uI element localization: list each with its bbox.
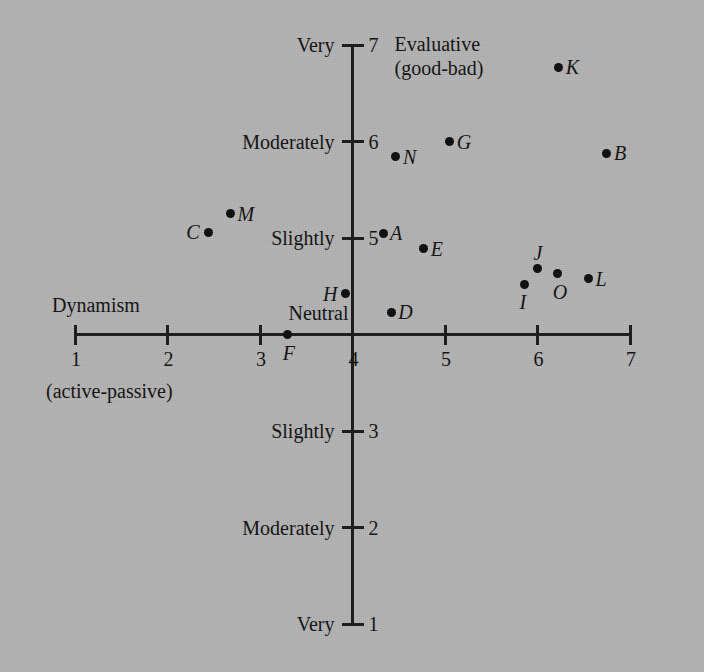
data-point	[379, 229, 388, 238]
data-point-label: D	[398, 302, 412, 322]
y-axis-tick-label: 3	[369, 421, 379, 441]
x-axis-tick-label: 2	[162, 349, 176, 369]
x-axis-tick-label: 5	[439, 349, 453, 369]
x-axis-tick	[629, 325, 632, 345]
data-point-label: K	[566, 57, 579, 77]
y-axis-tick-label: 5	[369, 228, 379, 248]
data-point-label: O	[553, 282, 567, 302]
y-axis-tick	[342, 237, 364, 240]
figure-canvas: 1234567123567VeryModeratelySlightlyNeutr…	[0, 0, 704, 672]
y-axis-category-label: Very	[0, 614, 335, 634]
data-point-label: C	[186, 222, 199, 242]
x-axis-tick-label: 7	[624, 349, 638, 369]
data-point	[554, 63, 563, 72]
y-axis-tick-label: 2	[369, 518, 379, 538]
data-point	[419, 244, 428, 253]
data-point	[445, 137, 454, 146]
y-axis-category-label: Slightly	[0, 228, 335, 248]
y-axis-category-label: Moderately	[0, 132, 335, 152]
data-point	[602, 149, 611, 158]
data-point	[341, 289, 350, 298]
data-point-label: F	[283, 343, 295, 363]
data-point	[283, 330, 292, 339]
data-point	[553, 269, 562, 278]
y-axis-title: Evaluative(good-bad)	[395, 33, 484, 80]
y-axis-title-line1: Evaluative	[395, 33, 484, 57]
y-axis-category-label: Moderately	[0, 518, 335, 538]
data-point-label: J	[534, 243, 543, 263]
data-point	[520, 280, 529, 289]
data-point-label: L	[595, 269, 606, 289]
x-axis-tick	[74, 325, 77, 345]
data-point-label: B	[614, 143, 626, 163]
data-point	[387, 308, 396, 317]
x-axis-tick-label: 6	[532, 349, 546, 369]
data-point	[584, 274, 593, 283]
x-axis-title: Dynamism	[52, 295, 140, 315]
y-axis-tick	[342, 526, 364, 529]
y-axis-category-label: Slightly	[0, 421, 335, 441]
data-point	[533, 264, 542, 273]
data-point	[204, 228, 213, 237]
data-point-label: A	[390, 223, 402, 243]
data-point-label: M	[237, 204, 254, 224]
x-axis-tick-label: 3	[254, 349, 268, 369]
y-axis-line	[351, 45, 354, 624]
y-axis-category-label: Very	[0, 35, 335, 55]
y-axis-tick	[342, 44, 364, 47]
y-axis-tick-label: 1	[369, 614, 379, 634]
x-axis-tick	[444, 325, 447, 345]
data-point	[226, 209, 235, 218]
data-point-label: N	[403, 147, 416, 167]
x-axis-tick	[536, 325, 539, 345]
data-point-label: E	[431, 239, 443, 259]
scatter-plot: 1234567123567VeryModeratelySlightlyNeutr…	[0, 0, 704, 672]
y-axis-title-line2: (good-bad)	[395, 57, 484, 81]
y-axis-tick	[342, 140, 364, 143]
data-point-label: I	[520, 292, 527, 312]
data-point-label: H	[323, 284, 337, 304]
x-axis-tick-label: 4	[347, 349, 361, 369]
x-axis-tick-label: 1	[69, 349, 83, 369]
x-axis-subtitle: (active-passive)	[46, 381, 173, 401]
y-axis-tick-label: 6	[369, 132, 379, 152]
y-axis-tick-label: 7	[369, 35, 379, 55]
x-axis-tick	[166, 325, 169, 345]
x-axis-tick	[259, 325, 262, 345]
data-point-label: G	[457, 132, 471, 152]
y-axis-tick	[342, 430, 364, 433]
y-axis-tick	[342, 623, 364, 626]
data-point	[391, 152, 400, 161]
